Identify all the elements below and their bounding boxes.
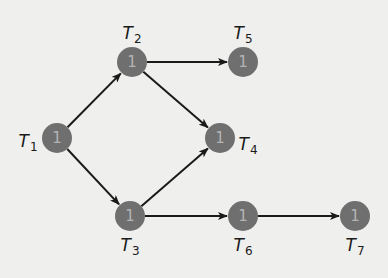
node-t7: 1 xyxy=(340,201,370,231)
label-main: T xyxy=(238,134,248,154)
node-label-t5: T5 xyxy=(233,23,252,46)
label-main: T xyxy=(122,23,132,43)
node-value: 1 xyxy=(215,129,225,147)
task-graph-diagram: 1111111 T1T2T3T4T5T6T7 xyxy=(0,0,388,278)
label-subscript: 7 xyxy=(357,244,365,258)
node-value: 1 xyxy=(52,129,62,147)
label-main: T xyxy=(233,23,243,43)
node-label-t4: T4 xyxy=(238,134,257,157)
edge-t1-to-t2 xyxy=(68,73,121,127)
node-value: 1 xyxy=(350,207,360,225)
label-main: T xyxy=(345,235,355,255)
node-value: 1 xyxy=(127,53,137,71)
edge-t2-to-t4 xyxy=(143,72,208,128)
node-t1: 1 xyxy=(42,123,72,153)
node-value: 1 xyxy=(238,53,248,71)
node-label-t3: T3 xyxy=(120,235,139,258)
label-subscript: 6 xyxy=(245,244,253,258)
node-t4: 1 xyxy=(205,123,235,153)
label-main: T xyxy=(18,131,28,151)
node-value: 1 xyxy=(125,207,135,225)
node-t5: 1 xyxy=(228,47,258,77)
label-main: T xyxy=(233,235,243,255)
node-t6: 1 xyxy=(228,201,258,231)
label-subscript: 4 xyxy=(250,143,258,157)
node-label-t7: T7 xyxy=(345,235,364,258)
node-value: 1 xyxy=(238,207,248,225)
node-t3: 1 xyxy=(115,201,145,231)
node-label-t1: T1 xyxy=(18,131,37,154)
node-label-t6: T6 xyxy=(233,235,252,258)
label-subscript: 5 xyxy=(245,32,253,46)
label-subscript: 3 xyxy=(132,244,140,258)
edge-t1-to-t3 xyxy=(67,149,119,204)
label-subscript: 2 xyxy=(134,32,142,46)
node-t2: 1 xyxy=(117,47,147,77)
label-main: T xyxy=(120,235,130,255)
node-label-t2: T2 xyxy=(122,23,141,46)
edge-t3-to-t4 xyxy=(141,148,208,206)
label-subscript: 1 xyxy=(30,140,38,154)
